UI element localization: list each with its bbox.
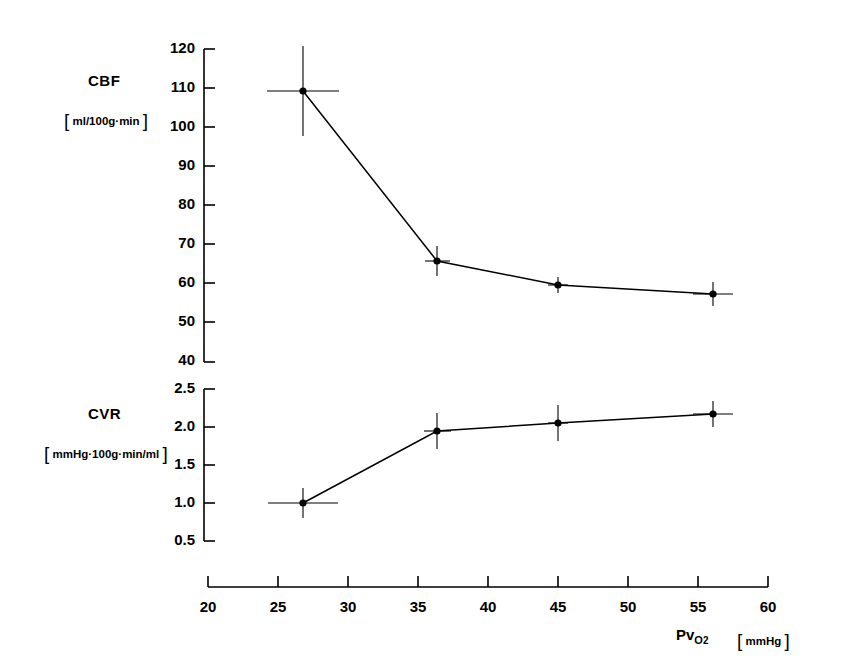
cbf-marker [433, 257, 440, 264]
x-axis [208, 576, 768, 587]
cbf-marker [299, 87, 306, 94]
cbf-data-points [267, 46, 733, 306]
figure-canvas: CBF [ ml/100g·min ] 120 110 100 90 80 70… [0, 0, 859, 667]
cbf-markers [299, 87, 716, 297]
cvr-series-line [303, 414, 713, 503]
cvr-data-points [268, 401, 733, 518]
cbf-marker [709, 290, 716, 297]
cbf-series-line [303, 91, 713, 294]
cvr-marker [709, 410, 716, 417]
cvr-markers [299, 410, 716, 506]
plot-area [0, 0, 859, 667]
cvr-marker [433, 427, 440, 434]
cbf-y-axis [204, 49, 215, 362]
cvr-y-axis [204, 389, 215, 541]
cbf-marker [554, 281, 561, 288]
cvr-marker [554, 419, 561, 426]
cvr-marker [299, 499, 306, 506]
